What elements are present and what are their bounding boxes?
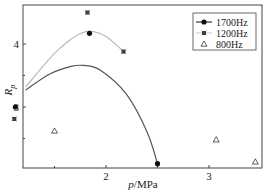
- 800Hz-point: [213, 137, 219, 142]
- 1700Hz-point: [13, 104, 18, 109]
- 800Hz-point: [52, 128, 58, 133]
- fit-curves: [26, 31, 158, 163]
- 1700Hz-point: [87, 31, 92, 36]
- x-axis-label: p/MPa: [127, 178, 157, 190]
- y-axis-label: Rp: [2, 85, 17, 97]
- 1200Hz-fit-curve: [26, 31, 124, 86]
- legend-label: 800Hz: [216, 39, 243, 50]
- legend-label: 1700Hz: [216, 17, 248, 28]
- legend-label: 1200Hz: [216, 28, 248, 39]
- 1700Hz-fit-curve: [26, 65, 158, 164]
- legend-marker: [201, 19, 206, 24]
- legend: 1700Hz1200Hz800Hz: [193, 13, 256, 50]
- 800Hz-point: [252, 159, 258, 164]
- x-tick-label: 2: [103, 170, 109, 182]
- y-tick-label: 4: [14, 38, 20, 50]
- chart: 2334 p/MPa Rp 1700Hz1200Hz800Hz: [0, 0, 266, 195]
- 1700Hz-point: [155, 161, 160, 166]
- axis-ticks: 2334: [14, 38, 213, 182]
- x-tick-label: 3: [206, 170, 212, 182]
